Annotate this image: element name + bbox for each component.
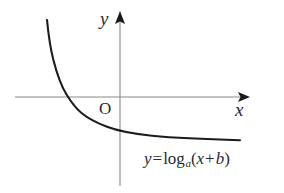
- equation-close-paren: ): [224, 150, 230, 167]
- equation-equals: =: [152, 150, 164, 167]
- math-figure: y x O y=loga(x+b): [0, 0, 284, 193]
- equation-argument-second: b: [216, 150, 225, 167]
- x-axis-label: x: [235, 100, 243, 119]
- equation-lhs: y: [144, 150, 152, 167]
- equation-function-name: log: [163, 150, 185, 167]
- equation-label: y=loga(x+b): [144, 150, 230, 167]
- origin-label: O: [99, 100, 111, 117]
- y-axis-label: y: [100, 9, 108, 28]
- graph-canvas: [0, 0, 284, 193]
- log-curve: [47, 20, 240, 140]
- equation-plus: +: [204, 150, 216, 167]
- equation-argument-first: x: [197, 150, 205, 167]
- equation-base: a: [185, 158, 191, 169]
